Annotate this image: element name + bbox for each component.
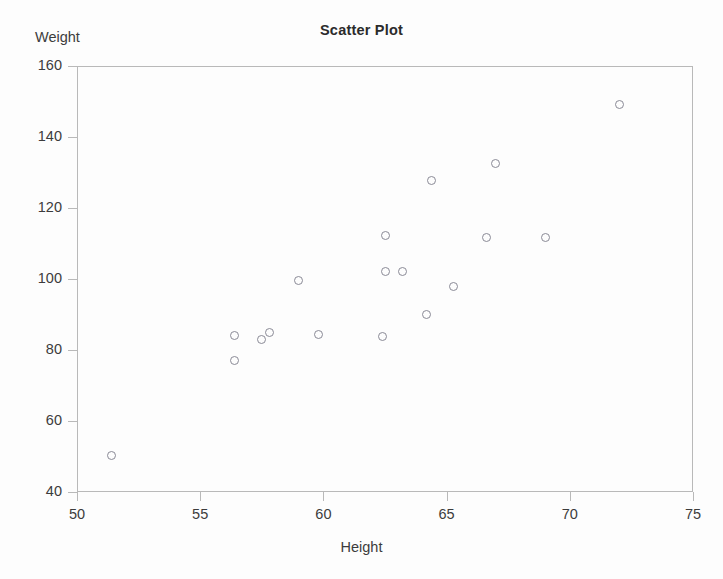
x-tick-mark — [77, 492, 78, 501]
data-point-marker — [294, 276, 303, 285]
data-point-marker — [482, 233, 491, 242]
data-point-marker — [398, 267, 407, 276]
y-tick-label: 100 — [10, 270, 62, 286]
x-tick-label: 50 — [47, 506, 107, 522]
y-tick-mark — [68, 208, 77, 209]
y-tick-mark — [68, 137, 77, 138]
data-point-marker — [314, 330, 323, 339]
y-tick-label: 80 — [10, 341, 62, 357]
x-tick-label: 60 — [293, 506, 353, 522]
y-axis-label: Weight — [35, 29, 80, 45]
x-tick-mark — [570, 492, 571, 501]
y-tick-label: 60 — [10, 412, 62, 428]
x-tick-label: 70 — [540, 506, 600, 522]
y-tick-label: 160 — [10, 57, 62, 73]
x-tick-mark — [693, 492, 694, 501]
y-tick-label: 140 — [10, 128, 62, 144]
data-point-marker — [449, 282, 458, 291]
y-tick-mark — [68, 492, 77, 493]
data-point-marker — [257, 335, 266, 344]
x-tick-label: 65 — [417, 506, 477, 522]
data-point-marker — [378, 332, 387, 341]
plot-area — [77, 66, 693, 492]
x-tick-label: 75 — [663, 506, 723, 522]
data-point-marker — [107, 451, 116, 460]
chart-title: Scatter Plot — [0, 22, 723, 38]
x-axis-label: Height — [0, 539, 723, 555]
data-point-marker — [491, 159, 500, 168]
y-tick-label: 40 — [10, 483, 62, 499]
x-tick-mark — [323, 492, 324, 501]
scatter-plot-figure: Scatter Plot Weight 406080100120140160 5… — [0, 0, 723, 579]
y-tick-label: 120 — [10, 199, 62, 215]
data-point-marker — [265, 328, 274, 337]
y-tick-mark — [68, 421, 77, 422]
data-point-marker — [422, 310, 431, 319]
y-tick-mark — [68, 350, 77, 351]
y-tick-mark — [68, 66, 77, 67]
data-point-marker — [381, 267, 390, 276]
data-point-marker — [381, 231, 390, 240]
x-tick-label: 55 — [170, 506, 230, 522]
data-point-marker — [230, 331, 239, 340]
x-tick-mark — [447, 492, 448, 501]
y-tick-mark — [68, 279, 77, 280]
x-tick-mark — [200, 492, 201, 501]
data-point-marker — [230, 356, 239, 365]
data-point-marker — [427, 176, 436, 185]
data-point-marker — [615, 100, 624, 109]
data-point-marker — [541, 233, 550, 242]
